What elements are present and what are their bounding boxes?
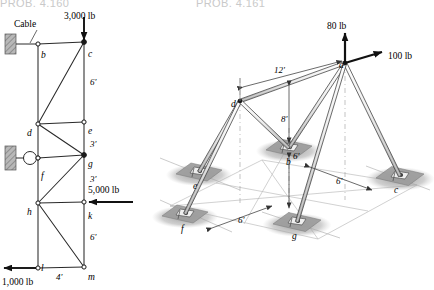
dim-6ft-lower: 6' [238,216,244,225]
dim-g-k-3ft: 3' [90,175,96,184]
space-frame-struts [183,61,401,222]
load-100lb-arrow [345,52,382,63]
strut-df [183,100,241,214]
dim-k-m-6ft: 6' [90,233,96,242]
load-100lb-label: 100 lb [388,52,412,62]
node-label-m: m [88,273,95,283]
wall-support-middle [5,146,16,170]
frame-node-label-b: b [286,158,291,168]
strut-ad [239,61,345,102]
truss-members [38,42,84,268]
node-label-l: l [41,264,44,274]
dim-6ft-right: 6' [336,177,342,186]
base-plate-f [152,205,218,228]
frame-node-label-e: e [193,182,197,192]
node-label-f: f [41,172,44,182]
truss-joint-k [82,200,86,204]
prob-header-left: PROB. 4.160 [0,0,69,9]
dim-c-e-6ft: 6' [90,78,96,87]
node-label-b: b [41,51,46,61]
truss-member-hk [38,202,84,203]
frame-node-label-d: d [231,100,236,110]
truss-member-hm [38,203,84,267]
truss-joint-m [82,265,86,269]
strut-db [239,100,290,149]
node-label-k: k [88,212,92,222]
strut-highlight-db [240,101,289,148]
truss-joint-e [82,120,86,124]
frame-node-label-g: g [292,232,297,242]
vertical-center-axes [240,40,345,213]
truss-member-lm [38,267,84,268]
frame-node-label-a: a [339,61,344,71]
prob-header-right: PROB. 4.161 [196,0,265,9]
load-1000lb-label: 1,000 lb [2,278,33,288]
frame-node-label-c: c [394,186,398,196]
node-label-g: g [88,160,93,170]
wall-support-top [5,34,16,54]
truss-joint-h [36,201,40,205]
truss-joint-c [82,40,87,45]
dim-e-g-3ft: 3' [90,140,96,149]
frame-node-label-f: f [181,225,184,235]
load-80lb-label: 80 lb [327,22,346,32]
truss-member-fg [38,155,84,158]
cable-label: Cable [14,20,36,30]
dim-l-m-4ft: 4' [56,273,62,282]
truss-joint-b [36,42,40,46]
truss-joint-l [36,266,40,270]
truss-load-arrows [4,17,133,268]
strut-highlight-df [185,101,240,214]
node-label-e: e [88,127,92,137]
truss-member-bc [38,42,84,44]
base-plate-c [365,167,434,191]
truss-joint-f [36,156,40,160]
dim-6ft-upper: 6' [293,152,299,161]
truss-joint-g [82,153,87,158]
truss-member-hg [38,155,84,203]
strut-highlight-ab [289,63,345,148]
dim-a-b-8ft: 8' [281,115,287,124]
right-space-frame-figure [152,33,434,239]
statics-figures-svg [0,0,434,290]
truss-member-dg [38,124,84,155]
space-frame-load-arrows [345,33,382,63]
dim-d-a-12ft: 12' [274,66,285,75]
node-label-c: c [88,50,92,60]
truss-member-de [38,122,84,124]
strut-highlight-ac [345,63,400,176]
cable-leader-line [30,30,37,43]
left-truss-figure [4,17,133,270]
node-label-h: h [27,208,32,218]
load-3000lb-label: 3,000 lb [64,12,95,22]
node-label-d: d [27,129,32,139]
truss-joint-d [36,122,40,126]
strut-highlight-ad [240,63,345,101]
strut-ac [343,62,401,176]
load-5000lb-label: 5,000 lb [88,186,119,196]
figure-canvas: PROB. 4.160 PROB. 4.161 bcdefghklm3,000 … [0,0,434,290]
